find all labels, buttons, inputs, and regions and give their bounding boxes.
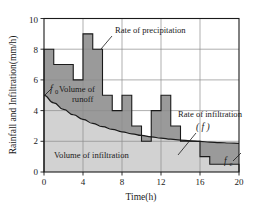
- y-tick-label: 10: [29, 15, 39, 25]
- y-tick-label: 2: [34, 136, 39, 146]
- x-tick-label: 16: [196, 177, 206, 187]
- x-tick-label: 20: [235, 177, 245, 187]
- x-tick-label: 12: [157, 177, 166, 187]
- annotation-label-line1: Volume of: [59, 84, 95, 94]
- y-tick-label: 6: [34, 75, 39, 85]
- fc-subscript: c: [230, 160, 233, 167]
- annotation-volume-of-infiltration: Volume of infiltration: [54, 150, 129, 160]
- x-tick-label: 8: [120, 177, 125, 187]
- x-axis-title: Time(h): [126, 192, 157, 203]
- y-axis-title: Rainfall and Infiltration(mm/h): [8, 36, 19, 155]
- annotation-label: Rate of infiltration: [178, 109, 243, 119]
- y-tick-label: 8: [34, 45, 39, 55]
- rainfall-infiltration-chart: 0 4 8 12 16 20 0 2 4 6 8 10 Time(h) Rain…: [0, 0, 258, 213]
- x-tick-label: 0: [42, 177, 47, 187]
- annotation-label-line2: runoff: [72, 94, 93, 104]
- annotation-label: Rate of precipitation: [115, 25, 186, 35]
- y-tick-label: 0: [34, 167, 39, 177]
- x-tick-label: 4: [81, 177, 86, 187]
- y-tick-label: 4: [34, 106, 39, 116]
- hydrograph-figure: 0 4 8 12 16 20 0 2 4 6 8 10 Time(h) Rain…: [0, 0, 258, 213]
- f-symbol: ( f ): [196, 122, 210, 133]
